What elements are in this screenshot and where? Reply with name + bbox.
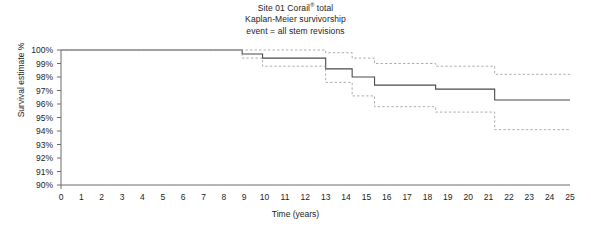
x-tick-label: 23 [525,192,535,202]
x-tick-label: 15 [362,192,372,202]
x-tick-label: 19 [443,192,453,202]
x-tick-label: 7 [201,192,206,202]
x-tick-label: 1 [79,192,84,202]
x-tick-label: 0 [59,192,64,202]
y-tick-label: 94% [36,126,53,136]
y-axis-ticks: 90%91%92%93%94%95%96%97%98%99%100% [31,45,61,190]
x-tick-label: 18 [423,192,433,202]
y-tick-label: 90% [36,180,53,190]
x-tick-label: 9 [242,192,247,202]
x-tick-label: 10 [260,192,270,202]
x-tick-label: 17 [402,192,412,202]
x-axis-ticks: 0123456789101112131415161718192021222324… [59,185,575,202]
x-tick-label: 20 [463,192,473,202]
y-tick-label: 96% [36,99,53,109]
y-axis-label: Survival estimate % [16,15,26,145]
km-confidence-band [61,50,570,74]
y-tick-label: 99% [36,59,53,69]
y-tick-label: 100% [31,45,53,55]
km-series-group [61,50,570,130]
km-survivorship-figure: Site 01 Corail® total Kaplan-Meier survi… [0,0,591,236]
x-tick-label: 2 [99,192,104,202]
y-tick-label: 98% [36,72,53,82]
x-tick-label: 6 [181,192,186,202]
x-axis-label: Time (years) [0,209,591,219]
y-tick-label: 95% [36,113,53,123]
x-tick-label: 12 [301,192,311,202]
x-tick-label: 4 [140,192,145,202]
x-tick-label: 11 [281,192,290,202]
x-tick-label: 25 [565,192,575,202]
x-tick-label: 13 [321,192,331,202]
y-tick-label: 91% [36,167,53,177]
x-tick-label: 3 [120,192,125,202]
x-tick-label: 24 [545,192,555,202]
y-tick-label: 93% [36,140,53,150]
x-tick-label: 22 [504,192,514,202]
x-tick-label: 8 [222,192,227,202]
y-tick-label: 92% [36,153,53,163]
x-tick-label: 5 [160,192,165,202]
km-confidence-band [61,50,570,130]
plot-area: 90%91%92%93%94%95%96%97%98%99%100% 01234… [0,0,591,236]
x-tick-label: 14 [341,192,351,202]
km-survival-curve [61,50,570,100]
x-tick-label: 16 [382,192,392,202]
y-tick-label: 97% [36,86,53,96]
x-tick-label: 21 [484,192,494,202]
